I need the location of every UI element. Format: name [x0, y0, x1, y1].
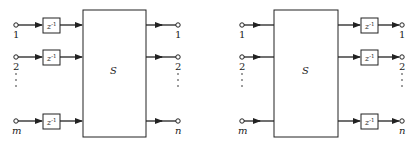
- input-terminal-icon: [14, 119, 18, 123]
- output-label-n: n: [175, 125, 181, 136]
- delay-label: z-1: [364, 117, 375, 127]
- output-terminal-icon: [400, 119, 404, 123]
- left-diagram: [14, 10, 180, 137]
- output-terminal-icon: [400, 55, 404, 59]
- output-label-2: 2: [399, 61, 405, 72]
- input-row-2: [240, 55, 274, 59]
- delay-label: z-1: [46, 53, 57, 63]
- input-row-m: [240, 119, 274, 123]
- output-row-n: [146, 119, 180, 123]
- input-terminal-icon: [240, 119, 244, 123]
- input-label-2: 2: [239, 61, 245, 72]
- output-terminal-icon: [176, 23, 180, 27]
- input-label-m: m: [12, 125, 21, 136]
- input-terminal-icon: [240, 23, 244, 27]
- delay-label: z-1: [46, 117, 57, 127]
- output-terminal-icon: [176, 119, 180, 123]
- output-terminal-icon: [176, 55, 180, 59]
- output-row-1: [146, 23, 180, 27]
- delay-label: z-1: [46, 21, 57, 31]
- delay-label: z-1: [364, 21, 375, 31]
- system-label: S: [110, 65, 117, 76]
- output-label-n: n: [399, 125, 405, 136]
- delay-label: z-1: [364, 53, 375, 63]
- output-row-2: [146, 55, 180, 59]
- output-label-2: 2: [175, 61, 181, 72]
- input-terminal-icon: [14, 55, 18, 59]
- block-diagrams: S z-1 z-1 z-1 1 2 m 1 2 n: [0, 0, 419, 144]
- output-ellipsis: [401, 73, 403, 87]
- output-label-1: 1: [175, 29, 181, 40]
- input-label-1: 1: [13, 29, 19, 40]
- right-diagram: [240, 10, 404, 137]
- input-ellipsis: [241, 73, 243, 87]
- output-terminal-icon: [400, 23, 404, 27]
- input-label-m: m: [238, 125, 247, 136]
- input-terminal-icon: [14, 23, 18, 27]
- input-terminal-icon: [240, 55, 244, 59]
- output-label-1: 1: [399, 29, 405, 40]
- input-label-1: 1: [239, 29, 245, 40]
- input-label-2: 2: [13, 61, 19, 72]
- output-ellipsis: [177, 73, 179, 87]
- input-ellipsis: [15, 73, 17, 87]
- system-label: S: [302, 65, 309, 76]
- input-row-1: [240, 23, 274, 27]
